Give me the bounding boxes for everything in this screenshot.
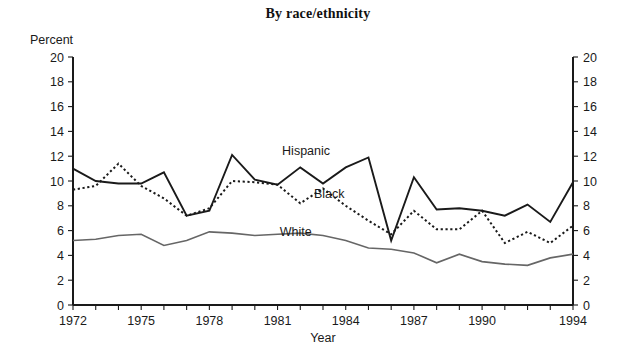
y-axis-left-tick-label: 6 [57,224,64,238]
x-axis-tick-label: 1972 [59,314,87,328]
y-axis-right-tick-label: 14 [583,125,597,139]
y-axis-right-ticks: 02468101214161820 [573,51,597,313]
y-axis-right-tick-label: 2 [583,274,590,288]
y-axis-left-tick-label: 12 [50,150,64,164]
series-label-hispanic: Hispanic [282,144,330,158]
y-axis-right-tick-label: 20 [583,51,597,65]
x-axis-ticks: 19721975197819811984198719901994 [59,305,587,328]
data-series [73,155,573,265]
y-axis-right-tick-label: 10 [583,175,597,189]
chart-figure: By race/ethnicity Percent Year 024681012… [0,0,636,357]
x-axis-tick-label: 1981 [264,314,292,328]
y-axis-right-tick-label: 8 [583,199,590,213]
y-axis-left-tick-label: 10 [50,175,64,189]
series-label-white: White [280,225,312,239]
x-axis-tick-label: 1987 [400,314,428,328]
y-axis-right-tick-label: 18 [583,75,597,89]
y-axis-left-tick-label: 16 [50,100,64,114]
y-axis-left-tick-label: 20 [50,51,64,65]
x-axis-tick-label: 1978 [195,314,223,328]
y-axis-left-tick-label: 14 [50,125,64,139]
x-axis-tick-label: 1994 [559,314,587,328]
y-axis-left-tick-label: 2 [57,274,64,288]
x-axis-tick-label: 1984 [332,314,360,328]
y-axis-left-ticks: 02468101214161820 [50,51,73,313]
series-annotations: HispanicBlackWhite [280,144,345,239]
y-axis-left-tick-label: 0 [57,299,64,313]
series-label-black: Black [314,187,345,201]
x-axis-tick-label: 1975 [127,314,155,328]
y-axis-left-tick-label: 8 [57,199,64,213]
series-line-white [73,232,573,265]
y-axis-left-tick-label: 18 [50,75,64,89]
y-axis-right-tick-label: 0 [583,299,590,313]
y-axis-left-tick-label: 4 [57,249,64,263]
y-axis-right-tick-label: 6 [583,224,590,238]
y-axis-right-tick-label: 12 [583,150,597,164]
line-chart-plot: 02468101214161820 02468101214161820 1972… [0,0,636,357]
y-axis-right-tick-label: 4 [583,249,590,263]
y-axis-right-tick-label: 16 [583,100,597,114]
series-line-black [73,164,573,243]
x-axis-tick-label: 1990 [468,314,496,328]
